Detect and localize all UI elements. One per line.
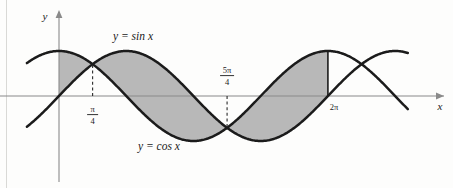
sine-curve-label: y = sin x xyxy=(112,30,154,43)
math-figure-plot: y x y = sin x y = cos x π 4 5π 4 2π xyxy=(0,0,453,188)
five-pi-over-4-denominator: 4 xyxy=(225,77,230,87)
five-pi-over-4-numerator: 5π xyxy=(223,65,232,75)
y-axis-label: y xyxy=(42,10,48,22)
pi-over-4-denominator: 4 xyxy=(90,116,95,126)
pi-over-4-numerator: π xyxy=(90,104,95,114)
tick-label-2pi: 2π xyxy=(330,102,339,112)
y-axis-arrow xyxy=(56,10,63,18)
cosine-curve-label: y = cos x xyxy=(137,140,181,153)
x-axis-label: x xyxy=(437,100,443,112)
x-axis-arrow xyxy=(436,93,444,100)
tick-label-pi-over-4: π 4 xyxy=(87,104,98,126)
figure-container: y x y = sin x y = cos x π 4 5π 4 2π xyxy=(0,0,453,188)
tick-label-5pi-over-4: 5π 4 xyxy=(220,65,234,87)
